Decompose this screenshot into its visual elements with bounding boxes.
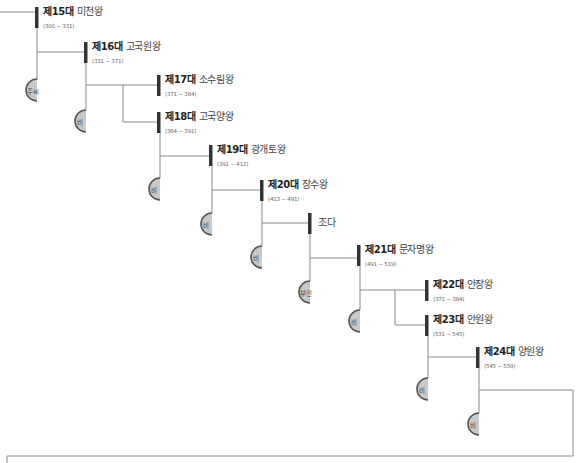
reign-years: (545 ~ 559) [484,362,544,370]
king-21: 제21대 문자명왕 (491 ~ 519) [365,244,433,268]
king-bar-19 [209,145,213,166]
king-17: 제17대 소수림왕 (371 ~ 384) [165,74,233,98]
king-number: 제18대 [165,111,196,122]
king-name: 고국양왕 [199,111,234,122]
person-name: 조다 [318,217,335,228]
king-18: 제18대 고국양왕 (384 ~ 391) [165,111,233,135]
king-name: 미천왕 [77,6,103,17]
king-bar-22 [425,280,429,301]
spouse-label: 비 [77,117,83,127]
king-name: 고국원왕 [126,41,161,52]
reign-years: (391 ~ 412) [217,160,285,168]
spouse-label: 비 [151,185,157,195]
reign-years: (300 ~ 331) [43,22,103,30]
king-15: 제15대 미천왕 (300 ~ 331) [43,6,103,30]
reign-years: (331 ~ 371) [92,57,160,65]
king-24: 제24대 양원왕 (545 ~ 559) [484,346,544,370]
king-bar-18 [157,112,161,133]
king-number: 제20대 [268,179,299,190]
king-bar-17 [157,75,161,96]
king-23: 제23대 안원왕 (531 ~ 545) [433,314,493,338]
spouse-label: 비 [419,385,425,395]
king-20: 제20대 장수왕 (413 ~ 491) [268,179,328,203]
reign-years: (413 ~ 491) [268,195,328,203]
reign-years: (371 ~ 384) [165,90,233,98]
king-name: 광개토왕 [251,144,286,155]
king-19: 제19대 광개토왕 (391 ~ 412) [217,144,285,168]
spouse-label: 비 [351,317,357,327]
king-name: 소수림왕 [199,74,234,85]
king-bar-23 [425,315,429,336]
reign-years: (531 ~ 545) [433,330,493,338]
king-bar-20 [260,180,264,201]
joda: 조다 [318,217,335,229]
king-bar-16 [84,42,88,63]
spouse-label: 비 [203,220,209,230]
king-number: 제21대 [365,244,396,255]
king-bar-joda [308,213,312,234]
spouse-label: 주씨 [27,86,39,96]
king-number: 제24대 [484,346,515,357]
king-bar-21 [357,245,361,266]
king-name: 안원왕 [467,314,493,325]
king-number: 제16대 [92,41,123,52]
reign-years: (371 ~ 384) [433,295,493,303]
reign-years: (491 ~ 519) [365,260,433,268]
king-bar-15 [35,7,39,28]
king-number: 제23대 [433,314,464,325]
king-name: 장수왕 [302,179,328,190]
king-name: 양원왕 [518,346,544,357]
king-number: 제15대 [43,6,74,17]
spouse-label: 비 [470,420,476,430]
king-name: 안장왕 [467,279,493,290]
family-tree-lines [0,0,577,463]
reign-years: (384 ~ 391) [165,127,233,135]
king-number: 제19대 [217,144,248,155]
king-name: 문자명왕 [399,244,434,255]
spouse-label: 비 [253,253,259,263]
king-bar-24 [476,347,480,368]
king-16: 제16대 고국원왕 (331 ~ 371) [92,41,160,65]
spouse-label: 부인 [300,288,312,298]
king-number: 제22대 [433,279,464,290]
king-number: 제17대 [165,74,196,85]
king-22: 제22대 안장왕 (371 ~ 384) [433,279,493,303]
